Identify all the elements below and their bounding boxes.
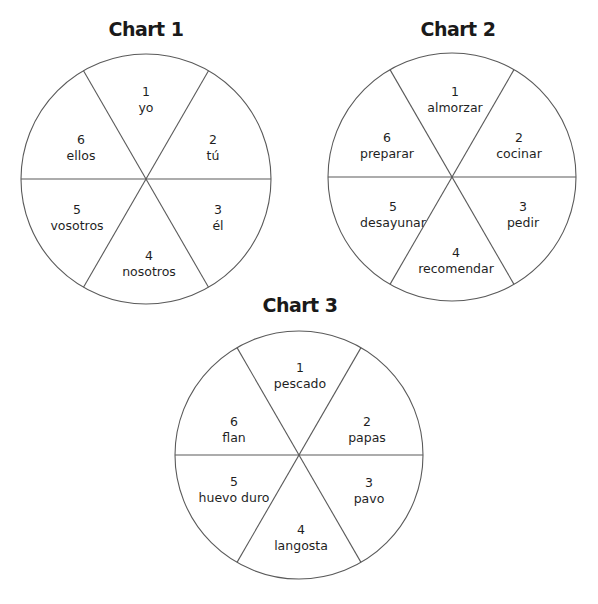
sector-label: 4recomendar <box>418 245 494 277</box>
sector-word: tú <box>207 148 220 164</box>
chart-title: Chart 3 <box>262 295 337 315</box>
sector-word: vosotros <box>50 218 103 234</box>
sector-number: 2 <box>207 132 220 148</box>
sector-label: 2cocinar <box>496 130 542 162</box>
sector-label: 3él <box>212 202 223 234</box>
sector-number: 3 <box>354 475 385 491</box>
sector-label: 1yo <box>138 84 153 116</box>
sector-label: 2tú <box>207 132 220 164</box>
sector-word: yo <box>138 100 153 116</box>
sector-label: 1almorzar <box>427 84 482 116</box>
sector-word: él <box>212 218 223 234</box>
sector-label: 5huevo duro <box>199 474 270 506</box>
sector-label: 1pescado <box>274 360 326 392</box>
sector-word: langosta <box>274 538 328 554</box>
sector-label: 3pavo <box>354 475 385 507</box>
sector-number: 2 <box>496 130 542 146</box>
sector-word: pavo <box>354 491 385 507</box>
sector-word: preparar <box>360 146 414 162</box>
sector-word: recomendar <box>418 261 494 277</box>
sector-number: 1 <box>274 360 326 376</box>
chart-title: Chart 1 <box>108 19 183 39</box>
sector-number: 6 <box>222 414 245 430</box>
sector-word: papas <box>348 430 386 446</box>
sector-number: 3 <box>212 202 223 218</box>
sector-label: 6flan <box>222 414 245 446</box>
sector-word: pescado <box>274 376 326 392</box>
sector-number: 2 <box>348 414 386 430</box>
sector-word: flan <box>222 430 245 446</box>
sector-number: 6 <box>67 132 96 148</box>
sector-number: 4 <box>418 245 494 261</box>
sector-word: ellos <box>67 148 96 164</box>
sector-label: 4langosta <box>274 522 328 554</box>
sector-label: 4nosotros <box>122 248 176 280</box>
sector-number: 3 <box>507 199 539 215</box>
sector-number: 1 <box>427 84 482 100</box>
sector-word: nosotros <box>122 264 176 280</box>
sector-number: 4 <box>274 522 328 538</box>
sector-label: 5vosotros <box>50 202 103 234</box>
sector-word: cocinar <box>496 146 542 162</box>
sector-word: huevo duro <box>199 490 270 506</box>
sector-number: 5 <box>360 199 426 215</box>
sector-label: 6ellos <box>67 132 96 164</box>
sector-label: 5desayunar <box>360 199 426 231</box>
sector-word: almorzar <box>427 100 482 116</box>
sector-number: 5 <box>199 474 270 490</box>
sector-label: 2papas <box>348 414 386 446</box>
chart-title: Chart 2 <box>420 19 495 39</box>
sector-number: 6 <box>360 130 414 146</box>
sector-word: desayunar <box>360 215 426 231</box>
cropped-top-text <box>0 0 598 3</box>
sector-word: pedir <box>507 215 539 231</box>
sector-label: 3pedir <box>507 199 539 231</box>
sector-number: 5 <box>50 202 103 218</box>
sector-number: 1 <box>138 84 153 100</box>
sector-number: 4 <box>122 248 176 264</box>
sector-label: 6preparar <box>360 130 414 162</box>
